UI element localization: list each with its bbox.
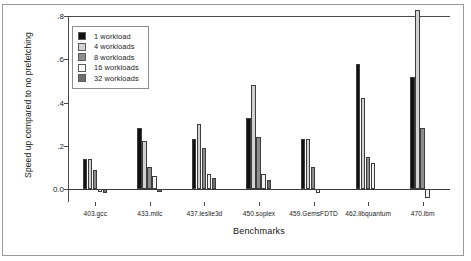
bar xyxy=(301,139,305,189)
x-axis-category-label: 459.GemsFDTD xyxy=(289,210,338,217)
bar xyxy=(103,189,107,193)
bar xyxy=(192,139,196,189)
bar-group xyxy=(356,16,381,202)
x-axis-category-label: 470.lbm xyxy=(411,210,435,217)
x-axis-category-label: 462.libquantum xyxy=(345,210,391,217)
x-axis-category-label: 437.leslie3d xyxy=(187,210,223,217)
legend-item: 16 workloads xyxy=(78,63,139,74)
legend-label: 8 workloads xyxy=(94,53,135,62)
legend-swatch xyxy=(78,43,86,51)
bar xyxy=(425,189,429,198)
bar xyxy=(306,139,310,189)
y-axis-title: Speed up compared to no prefetching xyxy=(23,15,33,195)
bar xyxy=(361,98,365,189)
bar-group xyxy=(410,16,435,202)
bar xyxy=(420,128,424,189)
legend-item: 32 workloads xyxy=(78,73,139,84)
bar xyxy=(157,189,161,192)
bar xyxy=(98,189,102,192)
bar xyxy=(256,137,260,189)
bar xyxy=(152,176,156,189)
legend-item: 4 workloads xyxy=(78,42,139,53)
y-axis-tick-label: .6 xyxy=(57,55,64,64)
bar xyxy=(83,159,87,189)
bar xyxy=(267,180,271,189)
legend-swatch xyxy=(78,53,86,61)
bar xyxy=(371,163,375,189)
legend-label: 16 workloads xyxy=(94,63,139,72)
legend-swatch xyxy=(78,32,86,40)
y-axis-tick xyxy=(64,189,69,190)
bar-group xyxy=(301,16,326,202)
x-axis-tick xyxy=(423,202,424,206)
chart-legend: 1 workload4 workloads8 workloads16 workl… xyxy=(72,26,149,89)
bar xyxy=(316,189,320,193)
bar xyxy=(356,64,360,189)
bar xyxy=(88,159,92,189)
bar xyxy=(142,141,146,189)
y-axis-line xyxy=(68,16,69,202)
bar-group xyxy=(246,16,271,202)
bar xyxy=(251,85,255,189)
bar xyxy=(366,157,370,189)
x-axis-tick xyxy=(150,202,151,206)
x-axis-title: Benchmarks xyxy=(68,226,450,236)
bar xyxy=(261,174,265,189)
y-axis-tick-label: .2 xyxy=(57,141,64,150)
bar xyxy=(212,178,216,189)
y-axis-tick xyxy=(64,146,69,147)
bar xyxy=(246,118,250,189)
x-axis-tick xyxy=(314,202,315,206)
y-axis-tick xyxy=(64,59,69,60)
bar xyxy=(202,148,206,189)
bar xyxy=(147,167,151,189)
bar xyxy=(93,170,97,189)
x-axis-category-label: 450.soplex xyxy=(243,210,275,217)
bar xyxy=(207,174,211,189)
x-axis-category-label: 403.gcc xyxy=(84,210,107,217)
x-axis-tick xyxy=(95,202,96,206)
legend-item: 8 workloads xyxy=(78,52,139,63)
bar xyxy=(410,77,414,189)
x-axis-tick xyxy=(204,202,205,206)
bar-chart-figure: Speed up compared to no prefetching 0.0.… xyxy=(0,0,471,261)
bar-group xyxy=(192,16,217,202)
legend-label: 32 workloads xyxy=(94,74,139,83)
legend-swatch xyxy=(78,74,86,82)
bar xyxy=(137,128,141,189)
x-axis-category-label: 433.milc xyxy=(137,210,162,217)
x-axis-tick xyxy=(368,202,369,206)
x-axis-tick xyxy=(259,202,260,206)
y-axis-tick-label: 0.0 xyxy=(53,185,64,194)
legend-item: 1 workload xyxy=(78,31,139,42)
y-axis-tick xyxy=(64,16,69,17)
y-axis-tick-label: .8 xyxy=(57,12,64,21)
bar xyxy=(197,124,201,189)
legend-label: 1 workload xyxy=(94,32,131,41)
legend-swatch xyxy=(78,64,86,72)
legend-label: 4 workloads xyxy=(94,42,135,51)
bar xyxy=(311,167,315,189)
bar xyxy=(415,10,419,189)
y-axis-tick xyxy=(64,103,69,104)
y-axis-tick-label: .4 xyxy=(57,98,64,107)
